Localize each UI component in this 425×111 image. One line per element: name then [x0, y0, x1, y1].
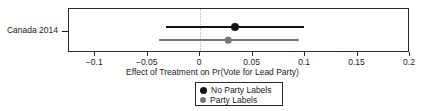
x-axis-tick-mark [357, 52, 358, 56]
legend: No Party Labels Party Labels [195, 82, 283, 106]
zero-reference-line [200, 9, 201, 51]
coefficient-plot-figure: Canada 2014 −0.1−0.0500.050.10.150.2 Eff… [0, 0, 425, 111]
legend-marker-icon [200, 97, 206, 103]
x-axis-tick-mark [252, 52, 253, 56]
x-axis-tick-label: 0 [179, 57, 219, 67]
x-axis-title: Effect of Treatment on Pr(Vote for Lead … [0, 67, 425, 78]
x-axis-tick-mark [199, 52, 200, 56]
legend-label: Party Labels [210, 95, 257, 105]
x-axis-tick-label: −0.1 [74, 57, 114, 67]
x-axis-tick-label: 0.05 [232, 57, 272, 67]
legend-item-party-labels[interactable]: Party Labels [199, 95, 279, 105]
legend-label: No Party Labels [211, 85, 271, 95]
x-axis-tick-label: −0.05 [127, 57, 167, 67]
x-axis-tick-label: 0.15 [337, 57, 377, 67]
x-axis-tick-label: 0.2 [389, 57, 425, 67]
x-axis-tick-mark [147, 52, 148, 56]
x-axis-tick-mark [304, 52, 305, 56]
estimate-point-marker[interactable] [225, 37, 232, 44]
x-axis-tick-mark [94, 52, 95, 56]
y-axis-category-label: Canada 2014 [4, 25, 58, 36]
estimate-point-marker[interactable] [231, 23, 239, 31]
legend-item-no-party-labels[interactable]: No Party Labels [199, 85, 279, 95]
legend-marker-icon [200, 87, 207, 94]
x-axis-tick-label: 0.1 [284, 57, 324, 67]
plot-area [68, 8, 409, 52]
x-axis-tick-mark [409, 52, 410, 56]
